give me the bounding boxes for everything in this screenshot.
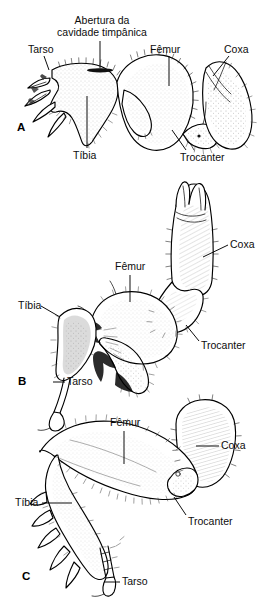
panel-b-drawing (38, 182, 218, 431)
label-trochanter-b: Trocanter (201, 340, 246, 352)
label-tympanic-cavity-opening: Abertura da cavidade timpânica (52, 14, 152, 38)
label-coxa-c: Coxa (221, 440, 246, 452)
label-text-line-1: Abertura da (75, 14, 130, 26)
label-coxa-b: Coxa (230, 239, 255, 251)
panel-letter-c: C (22, 570, 30, 582)
label-tibia-a: Tíbia (73, 150, 96, 162)
label-femur-a: Fêmur (150, 44, 180, 56)
panel-a-drawing (25, 49, 256, 154)
label-tarsus-b: Tarso (67, 376, 93, 388)
label-femur-c: Fêmur (110, 417, 140, 429)
label-trochanter-c: Trocanter (188, 516, 233, 528)
label-coxa-a: Coxa (224, 44, 249, 56)
panel-letter-a: A (17, 121, 25, 133)
anatomical-figure: Abertura da cavidade timpânica Tarso Fêm… (0, 0, 264, 600)
label-tarsus-c: Tarso (122, 576, 148, 588)
label-tibia-b: Tíbia (18, 300, 41, 312)
label-text-line-2: cavidade timpânica (57, 26, 147, 38)
label-trochanter-a: Trocanter (180, 152, 225, 164)
panel-letter-b: B (18, 375, 26, 387)
label-femur-b: Fêmur (115, 261, 145, 273)
label-tibia-c: Tíbia (15, 497, 38, 509)
label-tarsus-a: Tarso (28, 44, 54, 56)
